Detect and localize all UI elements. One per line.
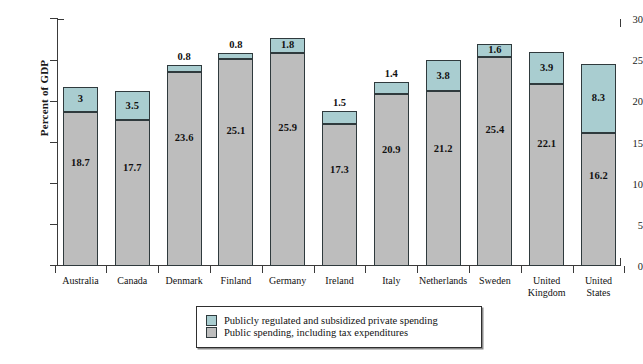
x-axis-tick [573,266,574,273]
bar-group[interactable]: 20.91.4 [374,82,409,266]
x-axis-category-label: Denmark [158,275,210,287]
x-axis-category-label: Germany [262,275,314,287]
y-axis-tick [50,224,58,225]
x-axis-tick [158,266,159,273]
bar-segment-private[interactable]: 3.8 [426,60,461,91]
legend-item-public: Public spending, including tax expenditu… [206,327,472,338]
bar-segment-public[interactable]: 18.7 [63,112,98,266]
legend-swatch-public-icon [206,327,217,338]
x-axis-tick [417,266,418,273]
bar-group[interactable]: 25.91.8 [270,38,305,266]
bar-segment-private[interactable]: 1.8 [270,38,305,53]
bar-segment-public[interactable]: 17.7 [115,120,150,266]
bar-group[interactable]: 16.28.3 [581,64,616,266]
bar-segment-public[interactable]: 21.2 [426,91,461,266]
bar-value-label-public: 16.2 [589,171,608,182]
bar-value-label-private: 1.6 [488,45,501,56]
legend-item-private: Publicly regulated and subsidized privat… [206,315,472,326]
bar-value-label-private: 1.4 [374,68,409,79]
bar-segment-private[interactable] [322,111,357,123]
x-axis-tick [365,266,366,273]
bar-group[interactable]: 18.73 [63,87,98,266]
bar-value-label-public: 21.2 [434,144,453,155]
bar-value-label-public: 22.1 [537,139,556,150]
bar-segment-public[interactable]: 20.9 [374,94,409,266]
y-axis-tick [50,18,58,19]
x-axis-tick [210,266,211,273]
bar-value-label-private: 0.8 [167,51,202,62]
y-axis-tick [50,183,58,184]
x-axis-category-label: Italy [365,275,417,287]
x-axis-category-label: Netherlands [417,275,469,287]
x-axis-category-label: Canada [106,275,158,287]
x-axis-tick [469,266,470,273]
bar-group[interactable]: 21.23.8 [426,60,461,266]
bar-group[interactable]: 25.41.6 [477,44,512,266]
bar-value-label-private: 0.8 [218,39,253,50]
bar-segment-public[interactable]: 17.3 [322,124,357,266]
bar-group[interactable]: 17.31.5 [322,111,357,266]
bar-segment-public[interactable]: 16.2 [581,133,616,266]
x-axis-tick [262,266,263,273]
bar-segment-private[interactable]: 3.5 [115,91,150,120]
bar-segment-private[interactable]: 3.9 [529,52,564,84]
bar-group[interactable]: 22.13.9 [529,52,564,266]
x-axis-tick [521,266,522,273]
bar-segment-private[interactable] [167,65,202,72]
bar-value-label-private: 8.3 [592,93,605,104]
bar-value-label-public: 23.6 [175,133,194,144]
x-axis-category-label: Finland [210,275,262,287]
chart-legend: Publicly regulated and subsidized privat… [196,306,482,348]
bar-value-label-public: 25.9 [278,123,297,134]
bar-value-label-private: 3 [78,94,83,105]
x-axis-category-label: Australia [55,275,107,287]
bar-chart: Percent of GDP 051015202530 18.7317.73.5… [0,0,643,364]
bar-segment-private[interactable] [218,53,253,60]
bar-segment-public[interactable]: 25.1 [218,59,253,266]
y-axis-title: Percent of GDP [38,18,50,178]
x-axis-tick [106,266,107,273]
bar-value-label-private: 3.9 [540,63,553,74]
x-axis-category-label: United Kingdom [521,275,573,298]
x-axis-category-label: United States [573,275,625,298]
x-axis-category-label: Sweden [469,275,521,287]
bar-segment-private[interactable]: 8.3 [581,64,616,132]
legend-label-private: Publicly regulated and subsidized privat… [224,315,438,326]
legend-swatch-private-icon [206,315,217,326]
bar-group[interactable]: 25.10.8 [218,53,253,266]
y-axis-tick [50,101,58,102]
bar-value-label-public: 25.4 [486,125,505,136]
frame-tick-top-left [57,19,64,20]
x-axis-category-label: Ireland [314,275,366,287]
bar-value-label-public: 20.9 [382,145,401,156]
bar-value-label-public: 17.3 [330,165,349,176]
bar-value-label-private: 3.5 [126,101,139,112]
y-axis-tick-label: 30 [601,14,643,25]
bar-segment-public[interactable]: 25.4 [477,57,512,266]
x-axis-tick [55,266,56,273]
bar-value-label-private: 1.8 [281,40,294,51]
bar-value-label-private: 3.8 [436,71,449,82]
bar-segment-private[interactable]: 3 [63,87,98,112]
bar-value-label-public: 17.7 [123,163,142,174]
bar-value-label-private: 1.5 [322,97,357,108]
bar-value-label-public: 25.1 [227,126,246,137]
y-axis-tick [50,142,58,143]
bar-group[interactable]: 23.60.8 [167,65,202,266]
bar-group[interactable]: 17.73.5 [115,91,150,266]
x-axis-tick [624,266,625,273]
bar-segment-public[interactable]: 23.6 [167,72,202,266]
bar-segment-public[interactable]: 22.1 [529,84,564,266]
legend-label-public: Public spending, including tax expenditu… [224,327,408,338]
y-axis-tick [50,60,58,61]
bar-value-label-public: 18.7 [71,158,90,169]
bar-segment-private[interactable] [374,82,409,94]
bar-segment-private[interactable]: 1.6 [477,44,512,57]
x-axis-tick [314,266,315,273]
bar-segment-public[interactable]: 25.9 [270,53,305,266]
